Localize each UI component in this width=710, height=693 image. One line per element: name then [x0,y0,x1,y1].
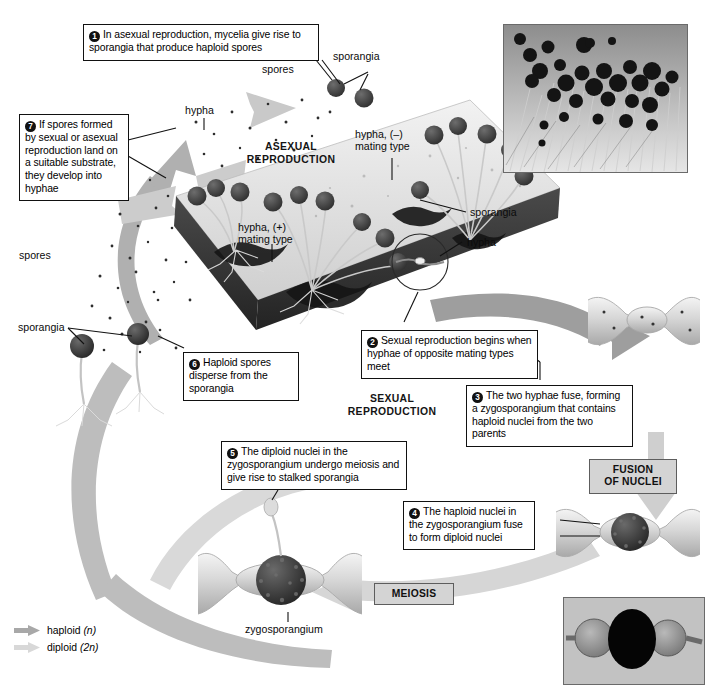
label-hypha-plus-mating-type: hypha, (+) mating type [238,221,293,246]
diploid-arrow-icon [14,642,40,653]
callout-number: 5 [227,448,238,459]
callout-text: If spores formed by sexual or asexual re… [25,119,118,194]
stage-label-sexual-reproduction: SEXUAL REPRODUCTION [336,392,448,418]
callout-number: 4 [409,508,420,519]
callout-text: Haploid spores disperse from the sporang… [189,357,271,394]
haploid-arrow-icon [14,625,40,636]
label-spores-top: spores [262,63,294,75]
callout-step-7[interactable]: 7If spores formed by sexual or asexual r… [19,114,129,201]
figure-canvas: 1In asexual reproduction, mycelia give r… [0,0,710,693]
callout-text: The haploid nuclei in the zygosporangium… [409,506,523,543]
callout-text: The two hyphae fuse, forming a zygospora… [472,390,620,439]
label-sporangia-left: sporangia [18,321,65,333]
callout-step-5[interactable]: 5The diploid nuclei in the zygosporangiu… [221,441,407,490]
label-sporangia-right: sporangia [470,206,517,218]
legend-item-haploid: haploid (n) [14,622,98,639]
label-spores-left: spores [19,249,51,261]
label-zygosporangium: zygosporangium [245,623,323,635]
zygosporangium-micrograph [563,597,705,685]
callout-number: 1 [89,31,100,42]
label-hypha-top: hypha [185,104,214,116]
stage-box-fusion-of-nuclei: FUSION OF NUCLEI [589,459,677,494]
callout-step-6[interactable]: 6Haploid spores disperse from the sporan… [183,352,299,401]
legend-label-haploid: haploid (n) [47,622,96,639]
callout-number: 3 [472,392,483,403]
callout-number: 7 [25,121,36,132]
label-sporangia-top: sporangia [333,50,380,62]
callout-text: Sexual reproduction begins when hyphae o… [367,335,532,372]
legend-label-diploid: diploid (2n) [47,639,98,656]
legend-item-diploid: diploid (2n) [14,639,98,656]
callout-text: The diploid nuclei in the zygosporangium… [227,446,399,483]
callout-step-1[interactable]: 1In asexual reproduction, mycelia give r… [83,24,319,61]
legend: haploid (n) diploid (2n) [14,622,98,656]
sporangia-micrograph [503,24,688,173]
callout-text: In asexual reproduction, mycelia give ri… [89,29,301,53]
stage-box-meiosis: MEIOSIS [374,583,454,605]
callout-number: 6 [189,359,200,370]
callout-step-2[interactable]: 2Sexual reproduction begins when hyphae … [361,330,538,379]
label-hypha-minus-mating-type: hypha, (–) mating type [355,128,410,153]
stage-label-asexual-reproduction: ASEXUAL REPRODUCTION [236,140,346,166]
label-hypha-right: hypha [467,236,496,248]
callout-number: 2 [367,337,378,348]
callout-step-3[interactable]: 3The two hyphae fuse, forming a zygospor… [466,385,633,447]
callout-step-4[interactable]: 4The haploid nuclei in the zygosporangiu… [403,501,535,550]
